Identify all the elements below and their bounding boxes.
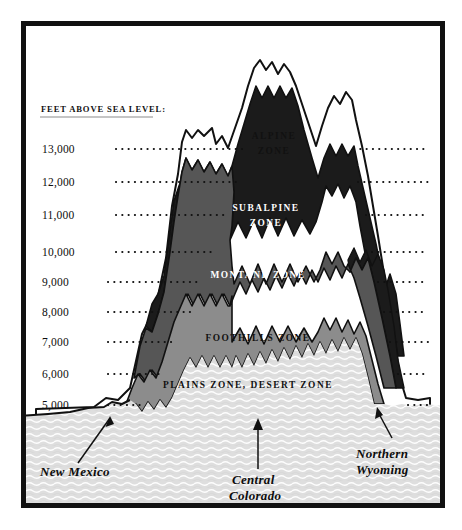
place-label-northern-wyoming-line2: Wyoming	[356, 462, 409, 477]
place-label-new-mexico: New Mexico	[39, 464, 110, 479]
zone-label-plains: PLAINS ZONE, DESERT ZONE	[163, 380, 333, 390]
zone-label-foothills: FOOTHILLS ZONE	[205, 333, 310, 343]
place-label-central-colorado-line1: Central	[232, 472, 275, 487]
axis-tick-8000: 8,000	[42, 306, 69, 319]
axis-tick-10000: 10,000	[42, 246, 75, 259]
axis-tick-labels: 13,000 12,000 11,000 10,000 9,000 8,000 …	[42, 143, 75, 412]
elevation-zone-diagram: FEET ABOVE SEA LEVEL: 13,000 12,000 11,0…	[26, 26, 440, 503]
zone-label-alpine-line1: ALPINE	[252, 131, 296, 141]
axis-heading: FEET ABOVE SEA LEVEL:	[41, 104, 166, 114]
zone-label-montane: MONTANE ZONE	[210, 270, 305, 280]
figure-root: FEET ABOVE SEA LEVEL: 13,000 12,000 11,0…	[0, 0, 462, 530]
axis-tick-13000: 13,000	[42, 143, 75, 156]
axis-tick-5000: 5,000	[42, 399, 69, 412]
axis-tick-7000: 7,000	[42, 336, 69, 349]
zone-label-alpine-line2: ZONE	[258, 146, 291, 156]
place-label-northern-wyoming-line1: Northern	[355, 446, 408, 461]
diagram-frame: FEET ABOVE SEA LEVEL: 13,000 12,000 11,0…	[21, 21, 445, 508]
axis-tick-11000: 11,000	[42, 209, 74, 222]
axis-heading-group: FEET ABOVE SEA LEVEL:	[40, 104, 166, 117]
axis-tick-9000: 9,000	[42, 276, 69, 289]
zone-label-subalpine-line2: ZONE	[250, 218, 283, 228]
place-label-central-colorado-line2: Colorado	[229, 488, 281, 503]
axis-tick-12000: 12,000	[42, 176, 75, 189]
axis-tick-6000: 6,000	[42, 368, 69, 381]
zone-label-subalpine-line1: SUBALPINE	[232, 203, 299, 213]
